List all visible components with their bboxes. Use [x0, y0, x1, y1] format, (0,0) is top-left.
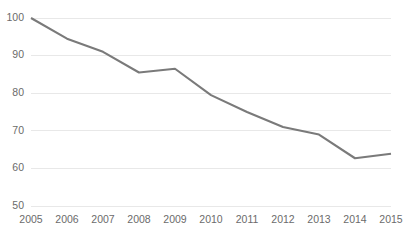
- x-axis-tick-label: 2015: [379, 213, 403, 225]
- x-axis-tick-label: 2008: [127, 213, 151, 225]
- y-axis-tick-label: 70: [12, 124, 24, 136]
- chart-canvas: 5060708090100 20052006200720082009201020…: [0, 0, 404, 239]
- x-axis-tick-labels: 2005200620072008200920102011201220132014…: [19, 213, 403, 225]
- x-axis-tick-label: 2012: [271, 213, 295, 225]
- x-axis-tick-label: 2011: [236, 213, 259, 225]
- y-axis-tick-label: 50: [12, 199, 24, 211]
- x-axis-tick-label: 2007: [91, 213, 115, 225]
- x-axis-tick-label: 2013: [307, 213, 331, 225]
- y-axis-tick-label: 80: [12, 86, 24, 98]
- line-chart: 5060708090100 20052006200720082009201020…: [0, 0, 404, 239]
- y-axis-tick-label: 90: [12, 48, 24, 60]
- x-axis-tick-label: 2009: [163, 213, 187, 225]
- x-axis-tick-label: 2006: [55, 213, 79, 225]
- x-axis-tick-label: 2014: [343, 213, 367, 225]
- y-axis-tick-label: 100: [6, 11, 24, 23]
- y-axis-tick-label: 60: [12, 161, 24, 173]
- x-axis-tick-label: 2010: [199, 213, 223, 225]
- x-axis-tick-label: 2005: [19, 213, 43, 225]
